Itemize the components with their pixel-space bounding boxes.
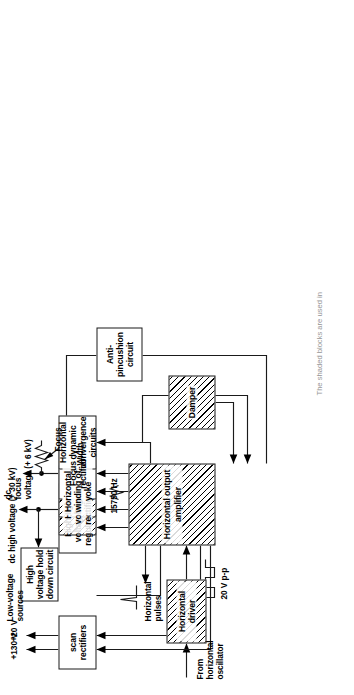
block-scan-rectifiers[interactable]: scan rectifiers [58,615,96,669]
label-20v-pp: 20 V p-p [218,567,228,599]
block-label: Damper [186,385,196,418]
label-from-horizontal-oscillator: From horizontal oscillator [194,640,224,679]
label-horizontal-pulses: Horizontal pulses [142,581,162,621]
block-label: Horizontal driver [176,581,196,641]
block-damper[interactable]: Damper [168,375,215,429]
block-label: Horizontal dynamic convergence circuits [57,416,98,468]
block-horizontal-convergence[interactable]: Horizontal dynamic convergence circuits [58,415,96,469]
block-hv-hold-down[interactable]: High voltage hold down circuit [20,547,58,601]
block-layer: scan rectifiers High voltage hold down c… [0,0,354,695]
label-low-voltage-sources: Low-voltage sources [4,573,24,621]
label-plus20v: +20 V [8,619,18,641]
figure-page: scan rectifiers High voltage hold down c… [0,0,354,695]
block-label: scan rectifiers [67,617,87,667]
block-horizontal-output-amplifier[interactable]: Horizontal output amplifier [128,463,215,545]
label-15750hz: 15750 Hz [108,478,118,513]
block-horizontal-driver[interactable]: Horizontal driver [166,579,206,643]
label-dc-focus-voltage: dc focus voltage (+ 6 kV) [2,439,32,499]
block-label: High voltage hold down circuit [24,549,54,599]
block-anti-pincushion[interactable]: Anti-pincushion circuit [96,327,142,381]
block-label: Horizontal output amplifier [161,465,181,543]
rotated-diagram-canvas: scan rectifiers High voltage hold down c… [0,0,354,695]
block-label: Anti-pincushion circuit [104,329,134,379]
figure-caption: The shaded blocks are used in [314,15,323,395]
